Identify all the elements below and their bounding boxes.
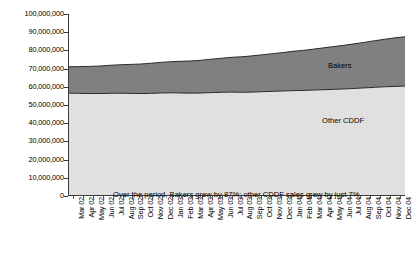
x-tick-mark [281, 196, 282, 199]
x-tick-mark [241, 196, 242, 199]
x-tick-label: Jan 04 [295, 197, 304, 245]
x-tick-mark [390, 196, 391, 199]
y-tick-label: 70,000,000 [16, 65, 64, 73]
x-tick-label: Jul 02 [117, 197, 126, 245]
x-axis-tick-labels: Mar 02Apr 02May 02Jun 02Jul 02Aug 02Sep … [68, 197, 405, 261]
x-tick-mark [311, 196, 312, 199]
x-tick-label: Apr 04 [325, 197, 334, 245]
y-tick-mark [64, 87, 68, 88]
x-tick-label: Feb 03 [186, 197, 195, 245]
x-tick-label: Jun 04 [345, 197, 354, 245]
y-tick-mark [64, 50, 68, 51]
x-tick-label: Sep 04 [374, 197, 383, 245]
x-tick-mark [152, 196, 153, 199]
x-tick-mark [331, 196, 332, 199]
x-tick-mark [350, 196, 351, 199]
x-tick-label: Sep 02 [136, 197, 145, 245]
x-tick-label: Dec 02 [166, 197, 175, 245]
area-series-other-cddf [69, 86, 405, 196]
x-tick-mark [232, 196, 233, 199]
x-tick-mark [370, 196, 371, 199]
x-tick-label: Aug 04 [364, 197, 373, 245]
x-tick-label: Feb 04 [305, 197, 314, 245]
x-tick-label: May 03 [216, 197, 225, 245]
y-tick-mark [64, 32, 68, 33]
x-tick-label: Nov 02 [156, 197, 165, 245]
y-tick-mark [64, 178, 68, 179]
x-tick-label: Oct 04 [384, 197, 393, 245]
y-tick-mark [64, 196, 68, 197]
x-tick-mark [83, 196, 84, 199]
stacked-area-chart: Volume (kg, MAT) 010,000,00020,000,00030… [0, 0, 420, 261]
x-tick-mark [162, 196, 163, 199]
x-tick-label: Apr 02 [87, 197, 96, 245]
y-tick-label: 20,000,000 [16, 156, 64, 164]
y-tick-mark [64, 14, 68, 15]
x-tick-mark [400, 196, 401, 199]
x-tick-label: Dec 03 [285, 197, 294, 245]
x-tick-mark [103, 196, 104, 199]
plot-svg [69, 14, 405, 196]
x-tick-mark [172, 196, 173, 199]
x-tick-label: Oct 02 [146, 197, 155, 245]
x-tick-label: Jul 03 [236, 197, 245, 245]
y-tick-label: 90,000,000 [16, 28, 64, 36]
x-tick-label: May 02 [97, 197, 106, 245]
x-tick-label: May 04 [335, 197, 344, 245]
x-tick-mark [202, 196, 203, 199]
x-tick-mark [222, 196, 223, 199]
x-tick-mark [360, 196, 361, 199]
x-tick-mark [93, 196, 94, 199]
x-tick-mark [251, 196, 252, 199]
plot-area [68, 14, 405, 196]
y-tick-mark [64, 141, 68, 142]
x-tick-label: Sep 03 [255, 197, 264, 245]
x-tick-label: Mar 02 [77, 197, 86, 245]
series-label-bakers: Bakers [328, 61, 352, 70]
y-tick-label: 80,000,000 [16, 46, 64, 54]
x-tick-label: Nov 03 [275, 197, 284, 245]
y-tick-label: 30,000,000 [16, 137, 64, 145]
x-tick-label: Dec 04 [404, 197, 413, 245]
x-tick-mark [73, 196, 74, 199]
x-tick-mark [113, 196, 114, 199]
y-tick-mark [64, 160, 68, 161]
y-tick-label: 40,000,000 [16, 119, 64, 127]
x-tick-mark [271, 196, 272, 199]
x-tick-mark [301, 196, 302, 199]
x-tick-mark [182, 196, 183, 199]
x-tick-mark [261, 196, 262, 199]
x-tick-label: Mar 04 [315, 197, 324, 245]
y-tick-mark [64, 123, 68, 124]
y-tick-label: 10,000,000 [16, 174, 64, 182]
x-tick-label: Nov 04 [394, 197, 403, 245]
series-label-other-cddf: Other CDDF [322, 116, 364, 125]
x-tick-label: Jul 04 [354, 197, 363, 245]
x-tick-mark [132, 196, 133, 199]
x-tick-mark [212, 196, 213, 199]
x-tick-mark [380, 196, 381, 199]
y-tick-label: 100,000,000 [16, 10, 64, 18]
x-tick-label: Mar 03 [196, 197, 205, 245]
x-tick-mark [291, 196, 292, 199]
x-tick-mark [192, 196, 193, 199]
x-tick-label: Apr 03 [206, 197, 215, 245]
y-tick-label: 0 [16, 192, 64, 200]
x-tick-mark [321, 196, 322, 199]
x-tick-mark [341, 196, 342, 199]
x-tick-label: Jan 03 [176, 197, 185, 245]
x-tick-mark [142, 196, 143, 199]
y-tick-label: 50,000,000 [16, 101, 64, 109]
y-tick-mark [64, 69, 68, 70]
x-tick-label: Jun 03 [226, 197, 235, 245]
y-tick-label: 60,000,000 [16, 83, 64, 91]
y-tick-mark [64, 105, 68, 106]
x-tick-label: Jun 02 [107, 197, 116, 245]
y-axis-tick-labels: 010,000,00020,000,00030,000,00040,000,00… [16, 0, 64, 261]
x-tick-label: Aug 02 [127, 197, 136, 245]
x-tick-mark [123, 196, 124, 199]
x-tick-label: Aug 03 [245, 197, 254, 245]
x-tick-label: Oct 03 [265, 197, 274, 245]
